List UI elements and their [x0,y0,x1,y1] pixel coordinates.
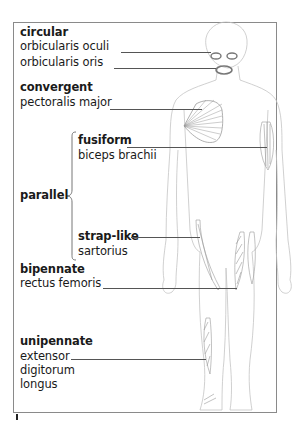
leader-pectoralis-major [110,109,202,110]
label-orbicularis-oris: orbicularis oris [20,55,103,69]
label-extensor: extensor [20,349,70,363]
extensor-digitorum-longus-muscle [204,318,216,404]
leader-extensor-digitorum-longus [71,359,206,360]
label-longus: longus [20,377,58,391]
label-orbicularis-oculi: orbicularis oculi [20,39,109,53]
leader-rectus-femoris [103,288,237,289]
leader-orbicularis-oculi [121,52,211,53]
label-parallel: parallel [20,188,68,202]
pectoralis-major-muscle [184,100,223,142]
leader-strap-like [131,237,200,238]
label-unipennate: unipennate [20,334,93,348]
label-bipennate: bipennate [20,262,85,276]
label-pectoralis-major: pectoralis major [20,95,112,109]
page-mark [16,414,18,420]
leader-orbicularis-oris [114,68,216,69]
orbicularis-oculi-right [227,53,237,59]
orbicularis-oculi-left [211,53,221,59]
label-strap-like: strap-like [78,229,139,243]
head-outline [206,22,247,68]
label-biceps-brachii: biceps brachii [78,148,157,162]
label-rectus-femoris: rectus femoris [20,276,101,290]
label-sartorius: sartorius [78,244,128,258]
label-circular: circular [20,25,68,39]
label-digitorum: digitorum [20,363,75,377]
rectus-femoris-muscle [235,232,256,290]
label-convergent: convergent [20,80,93,94]
label-fusiform: fusiform [78,133,132,147]
